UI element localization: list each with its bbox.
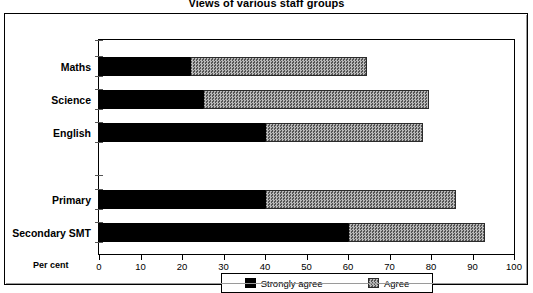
x-axis-tick: [182, 254, 183, 260]
chart-row: Primary: [99, 190, 514, 209]
y-axis-tick: [95, 175, 103, 176]
chart-row: English: [99, 123, 514, 142]
bar-segment-strongly-agree: [99, 57, 190, 76]
bar-segment-agree: [203, 90, 430, 109]
x-axis-tick-label: 70: [384, 261, 395, 272]
x-axis-tick: [307, 254, 308, 260]
y-axis-tick: [95, 40, 103, 41]
legend-swatch: [245, 278, 256, 288]
x-axis-tick: [473, 254, 474, 260]
x-axis-tick-label: 30: [218, 261, 229, 272]
bar-segment-strongly-agree: [99, 123, 265, 142]
chart-outer-frame: MathsScienceEnglishPrimarySecondary SMT0…: [4, 13, 528, 285]
category-label: Maths: [61, 61, 91, 73]
x-axis-tick-label: 100: [506, 261, 522, 272]
bar-segment-agree: [190, 57, 366, 76]
bar-segment-agree: [265, 123, 423, 142]
stacked-bar: [99, 123, 423, 142]
x-axis-tick: [265, 254, 266, 260]
legend-item: Agree: [368, 278, 409, 289]
x-axis-tick: [348, 254, 349, 260]
stacked-bar: [99, 90, 429, 109]
bar-segment-strongly-agree: [99, 190, 265, 209]
x-axis-tick-label: 90: [467, 261, 478, 272]
stacked-bar: [99, 190, 456, 209]
legend-item: Strongly agree: [245, 278, 323, 289]
category-label: Science: [51, 94, 91, 106]
y-axis-tick: [95, 142, 103, 143]
x-axis-tick-label: 10: [135, 261, 146, 272]
y-axis-tick: [95, 242, 103, 243]
x-axis-tick-label: 80: [426, 261, 437, 272]
bar-segment-strongly-agree: [99, 90, 203, 109]
legend-label: Agree: [384, 278, 409, 289]
x-axis-tick: [431, 254, 432, 260]
bar-segment-agree: [265, 190, 456, 209]
chart-row: Maths: [99, 57, 514, 76]
x-axis-tick: [99, 254, 100, 260]
x-axis-tick-label: 60: [343, 261, 354, 272]
legend-label: Strongly agree: [261, 278, 323, 289]
x-axis-tick-label: 0: [96, 261, 101, 272]
category-label: English: [53, 127, 91, 139]
y-axis-tick: [95, 209, 103, 210]
x-axis-label: Per cent: [33, 260, 69, 270]
y-axis-tick: [95, 76, 103, 77]
category-label: Secondary SMT: [12, 227, 91, 239]
x-axis-tick: [141, 254, 142, 260]
plot-area: MathsScienceEnglishPrimarySecondary SMT0…: [98, 39, 515, 255]
x-axis-tick-label: 50: [301, 261, 312, 272]
bar-segment-agree: [348, 223, 485, 242]
y-axis-tick: [95, 109, 103, 110]
x-axis-tick: [514, 254, 515, 260]
chart-legend: Strongly agreeAgree: [221, 273, 433, 293]
x-axis-tick: [224, 254, 225, 260]
bar-segment-strongly-agree: [99, 223, 348, 242]
chart-row: Science: [99, 90, 514, 109]
chart-row: Secondary SMT: [99, 223, 514, 242]
stacked-bar: [99, 223, 485, 242]
category-label: Primary: [52, 194, 91, 206]
x-axis-tick: [390, 254, 391, 260]
x-axis-tick-label: 20: [177, 261, 188, 272]
stacked-bar: [99, 57, 367, 76]
x-axis-tick-label: 40: [260, 261, 271, 272]
chart-title: Views of various staff groups: [0, 0, 533, 9]
legend-swatch: [368, 278, 379, 288]
